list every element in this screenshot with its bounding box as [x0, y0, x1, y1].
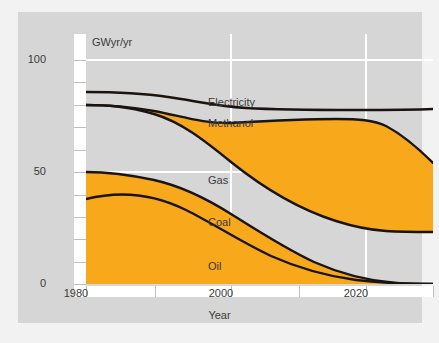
band-label-gas: Gas [208, 174, 228, 186]
x-tick-1990 [155, 286, 156, 297]
y-tick-40 [74, 195, 86, 196]
chart-figure: GWyr/yr [0, 0, 439, 343]
x-tick-2010 [299, 286, 300, 297]
chart-panel: GWyr/yr [18, 12, 422, 323]
band-label-electricity: Electricity [208, 96, 255, 108]
y-tick-label-100: 100 [0, 54, 46, 65]
y-tick-label-50: 50 [0, 166, 46, 177]
area-chart-svg [86, 34, 433, 284]
y-tick-30 [74, 217, 86, 218]
x-tick-label-2020: 2020 [326, 288, 386, 299]
y-tick-10 [74, 262, 86, 263]
plot-area [86, 34, 433, 284]
band-label-coal: Coal [208, 216, 231, 228]
x-tick-label-1980: 1980 [46, 288, 106, 299]
band-label-methanol: Methanol [208, 117, 253, 129]
y-tick-60 [74, 150, 86, 151]
y-tick-label-0: 0 [0, 278, 46, 289]
y-tick-90 [74, 82, 86, 83]
y-tick-80 [74, 105, 86, 106]
y-tick-70 [74, 127, 86, 128]
x-tick-2030 [433, 286, 434, 297]
x-axis-title: Year [0, 309, 439, 321]
y-tick-50 [74, 172, 86, 173]
y-tick-0 [74, 284, 86, 285]
y-tick-20 [74, 239, 86, 240]
y-axis-bar [74, 34, 86, 286]
y-tick-100 [74, 60, 86, 61]
x-tick-label-2000: 2000 [191, 288, 251, 299]
band-label-oil: Oil [208, 260, 221, 272]
